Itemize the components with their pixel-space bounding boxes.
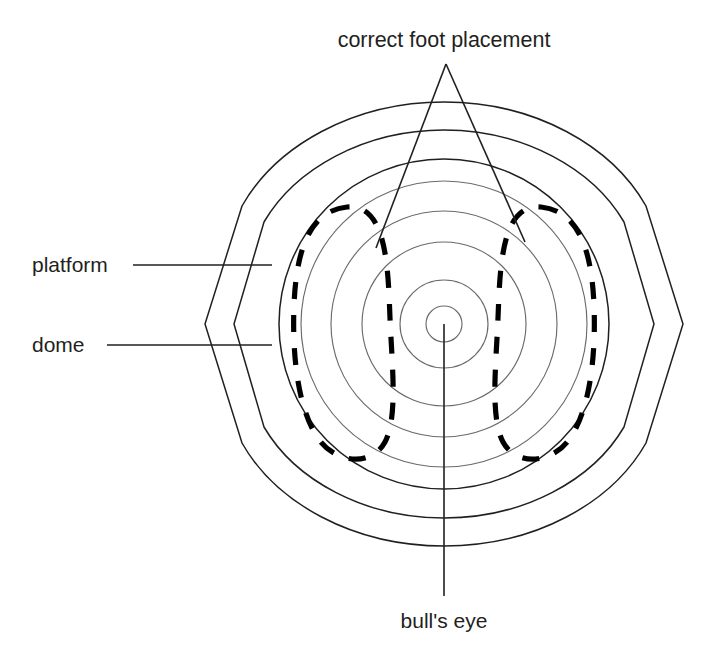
balance-trainer-top-view-diagram: correct foot placement platform dome bul… bbox=[0, 0, 711, 656]
label-dome: dome bbox=[32, 333, 85, 356]
diagram-background bbox=[0, 0, 711, 656]
label-correct-foot-placement: correct foot placement bbox=[338, 28, 551, 52]
label-bulls-eye: bull's eye bbox=[401, 609, 488, 632]
label-platform: platform bbox=[32, 253, 108, 276]
diagram-root: correct foot placement platform dome bul… bbox=[0, 0, 711, 656]
